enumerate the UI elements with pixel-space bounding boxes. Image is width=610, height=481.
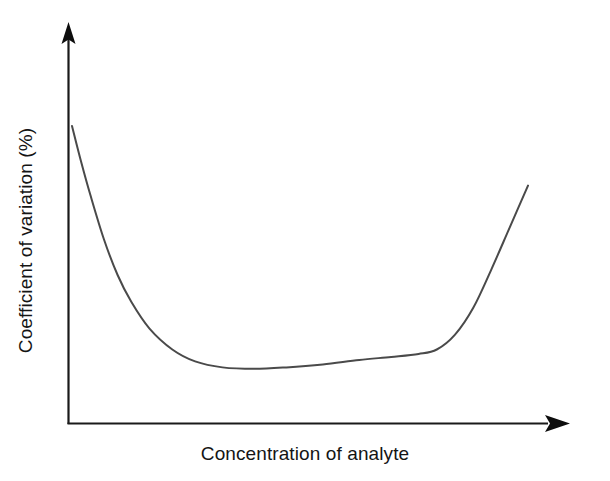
- y-axis-label: Coefficient of variation (%): [9, 0, 43, 481]
- x-axis-label: Concentration of analyte: [0, 443, 610, 465]
- chart-figure: Concentration of analyte Coefficient of …: [0, 0, 610, 481]
- precision-profile-plot: [0, 0, 610, 481]
- cv-curve-line: [72, 126, 528, 369]
- x-axis-arrow-icon: [545, 415, 570, 432]
